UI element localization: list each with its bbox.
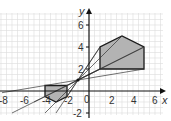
x-tick-label: -2 [64,95,73,106]
x-tick-label: -4 [42,95,51,106]
x-axis-label: x [161,94,168,106]
y-tick-label: 2 [78,64,84,75]
origin-label: 0 [84,94,90,105]
centre-of-enlargement [76,78,79,81]
y-tick-label: 4 [78,42,84,53]
x-tick-label: -8 [0,95,8,106]
x-tick-label: 6 [152,95,158,106]
x-tick-label: 4 [131,95,137,106]
x-tick-label: 2 [109,95,115,106]
y-tick-label: 6 [78,20,84,31]
object-pentagon [100,36,144,69]
y-axis-arrow-icon [86,8,92,14]
y-axis-label: y [78,5,86,17]
enlargement-diagram: y x 0 -8 -6 -4 -2 2 4 6 6 4 2 -2 [0,0,171,121]
y-tick-label: -2 [73,108,82,119]
x-tick-label: -6 [20,95,29,106]
